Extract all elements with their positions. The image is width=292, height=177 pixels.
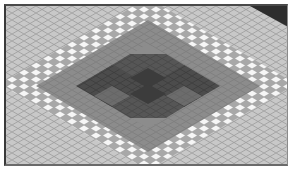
isometric-map-canvas[interactable] [6, 6, 288, 166]
map-preview-frame [4, 4, 288, 166]
